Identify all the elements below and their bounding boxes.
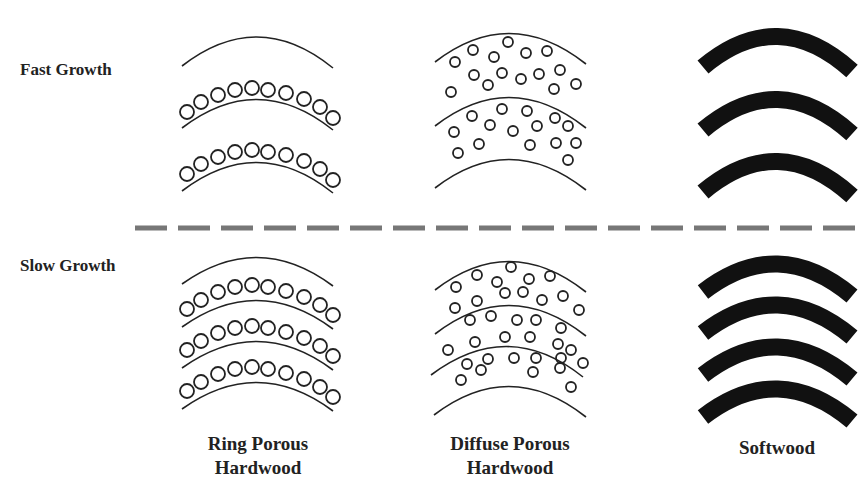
column-label-ring-porous: Ring Porous Hardwood — [208, 432, 308, 480]
growth-ring-line — [435, 159, 586, 190]
diffuse-pores — [446, 37, 581, 165]
growth-ring-line — [182, 300, 333, 329]
column-label-line: Ring Porous — [208, 432, 308, 456]
column-label-softwood: Softwood — [739, 436, 815, 460]
growth-ring-line — [182, 162, 333, 193]
growth-ring-line — [182, 37, 333, 68]
panel-fast-softwood — [703, 36, 852, 196]
growth-ring-line — [182, 341, 333, 370]
latewood-band — [703, 347, 852, 379]
column-label-line: Diffuse Porous — [450, 432, 569, 456]
latewood-band — [703, 264, 852, 296]
panel-slow-ring-porous — [180, 257, 340, 411]
panel-slow-softwood — [703, 264, 852, 421]
latewood-band — [703, 161, 852, 196]
growth-ring-line — [435, 261, 586, 292]
growth-ring-line — [182, 99, 333, 130]
latewood-band — [703, 36, 852, 71]
panel-fast-ring-porous — [180, 37, 340, 193]
wood-growth-diagram — [0, 0, 866, 496]
column-label-line: Softwood — [739, 436, 815, 460]
latewood-band — [703, 389, 852, 421]
latewood-band — [703, 305, 852, 337]
column-label-diffuse-porous: Diffuse Porous Hardwood — [450, 432, 569, 480]
latewood-band — [703, 99, 852, 134]
column-label-line: Hardwood — [450, 456, 569, 480]
growth-ring-line — [434, 386, 586, 417]
panel-fast-diffuse-porous — [435, 33, 586, 190]
panel-slow-diffuse-porous — [431, 261, 588, 417]
column-label-line: Hardwood — [208, 456, 308, 480]
growth-ring-line — [182, 382, 333, 411]
diffuse-pores — [443, 262, 588, 392]
